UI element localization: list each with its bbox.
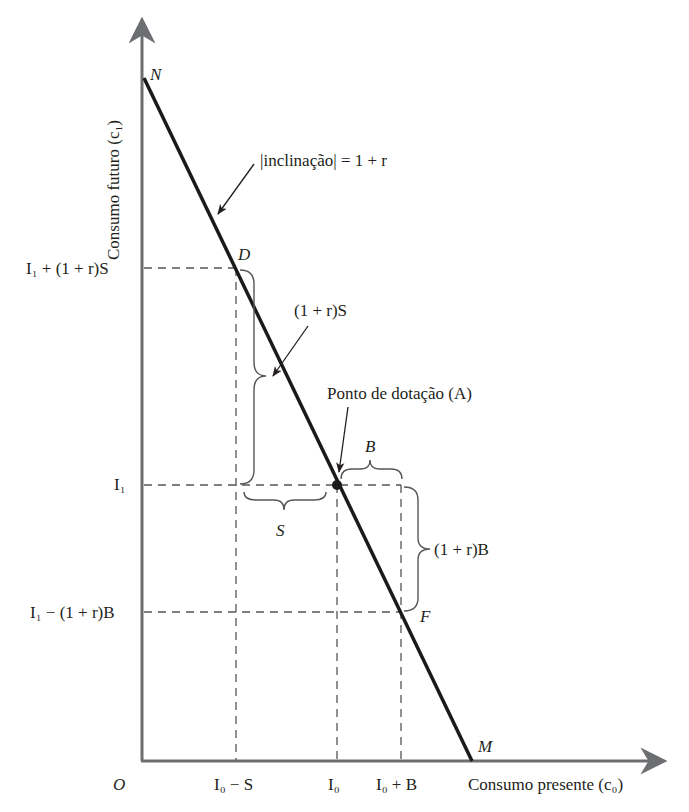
y-tick-i1-plus-saving: I₁ + (1 + r)S (26, 260, 109, 277)
endowment-arrow (339, 407, 348, 472)
slope-annotation: |inclinação| = 1 + r (260, 152, 387, 169)
borrowing-annotation: B (365, 438, 375, 455)
point-label-m: M (478, 738, 492, 755)
y-tick-i1-minus-borrow: I₁ − (1 + r)B (30, 604, 115, 621)
x-tick-i0: I₀ (328, 776, 340, 793)
brace-borrowing (341, 460, 402, 479)
budget-line (144, 78, 472, 761)
saving-gain-arrow (273, 326, 308, 376)
slope-arrow (218, 164, 254, 214)
y-tick-i1: I₁ (114, 476, 126, 493)
saving-gain-annotation: (1 + r)S (294, 302, 347, 319)
borrow-cost-annotation: (1 + r)B (434, 541, 489, 558)
x-axis-label: Consumo presente (c₀) (468, 776, 623, 793)
point-label-n: N (150, 66, 161, 83)
brace-saving (244, 492, 326, 510)
saving-annotation: S (276, 522, 285, 539)
endowment-annotation: Ponto de dotação (A) (327, 385, 472, 402)
origin-label: O (113, 776, 125, 793)
point-label-f: F (420, 608, 430, 625)
brace-borrow-cost (404, 487, 430, 611)
y-axis-label: Consumo futuro (c₁) (104, 120, 124, 260)
endowment-point (332, 480, 342, 490)
x-tick-i0-minus-s: I₀ − S (214, 776, 253, 793)
point-label-d: D (238, 246, 250, 263)
x-tick-i0-plus-b: I₀ + B (376, 776, 417, 793)
